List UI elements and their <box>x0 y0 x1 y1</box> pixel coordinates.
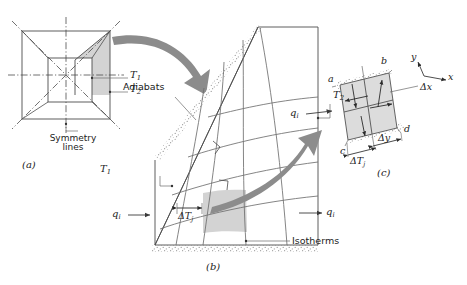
panel-a-symmetry-leader <box>65 123 78 131</box>
panel-b-deltaT-label: ΔTj <box>178 211 193 223</box>
flux-plot-figure: T1 T2 Symmetry lines (a) Adiabats T2 T1 … <box>0 0 467 285</box>
panel-c-corner-b-label: b <box>381 56 387 66</box>
panel-a-caption: (a) <box>22 160 36 171</box>
panel-c-axis-y-label: y <box>411 52 416 62</box>
panel-c-deltaT-label: ΔTj <box>350 156 365 168</box>
panel-c-deltax-label: Δx <box>420 82 432 92</box>
panel-c-deltay-label: Δy <box>378 133 390 143</box>
panel-c-flux-in-label: qi <box>290 108 299 120</box>
panel-b-temp-cold-label: T2 <box>333 90 344 102</box>
panel-c-group <box>306 62 446 157</box>
panel-c-corner-d-label: d <box>404 124 410 134</box>
panel-b-isotherms-leader <box>245 240 290 242</box>
panel-b-flux-right-label: qi <box>326 207 335 219</box>
panel-c-deltax-leader <box>390 86 418 92</box>
panel-b-t1-leader <box>160 176 173 187</box>
panel-c-flux-in-arrow <box>306 111 332 114</box>
panel-b-adiabats-label: Adiabats <box>123 82 164 92</box>
panel-b-diagonal-stipple <box>155 25 262 160</box>
symmetry-label-line2: lines <box>42 143 104 152</box>
panel-b-flux-left-label: qi <box>112 209 121 221</box>
panel-c-axes <box>418 62 446 80</box>
panel-c-caption: (c) <box>377 168 390 179</box>
panel-a-group <box>8 17 128 133</box>
panel-c-axis-x-label: x <box>448 72 453 82</box>
panel-c-corner-a-label: a <box>328 74 334 84</box>
panel-b-isotherms-label: Isotherms <box>292 236 339 246</box>
panel-a-inner-square <box>48 58 92 102</box>
panel-b-bottom-stipple <box>152 245 318 252</box>
panel-b-caption: (b) <box>206 262 220 273</box>
panel-c-corner-c-label: c <box>340 146 345 156</box>
panel-b-temp-hot-label: T1 <box>100 164 111 176</box>
panel-a-symmetry-label: Symmetry lines <box>42 134 104 153</box>
